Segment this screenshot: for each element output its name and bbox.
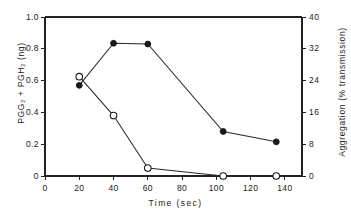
y-axis-right-title: Aggregation (% transmission) [337,4,351,180]
x-tick-label: 140 [269,183,301,193]
x-axis-title: Time (sec) [0,198,351,208]
y-tick-label-left: 0.6 [7,75,39,85]
data-point-open-circle [273,173,280,180]
y-tick-label-right: 40 [309,12,333,22]
series-line-0 [79,43,276,142]
y-tick-label-right: 24 [309,75,333,85]
x-tick-label: 80 [166,183,198,193]
x-tick-label: 20 [63,183,95,193]
y-tick-label-right: 16 [309,107,333,117]
data-point-open-circle [145,165,152,172]
y-tick-label-left: 0 [7,171,39,181]
y-tick-label-right: 0 [309,171,333,181]
series-line-1 [79,77,276,176]
y-tick-label-left: 1.0 [7,12,39,22]
data-point-filled-circle [76,82,82,88]
data-point-open-circle [220,173,227,180]
y-tick-label-left: 0.8 [7,43,39,53]
data-point-filled-circle [145,41,151,47]
x-tick-label: 120 [235,183,267,193]
y-tick-label-right: 8 [309,139,333,149]
data-point-open-circle [110,112,117,119]
x-tick-label: 100 [200,183,232,193]
data-point-filled-circle [273,139,279,145]
x-tick-label: 0 [29,183,61,193]
x-tick-label: 60 [132,183,164,193]
data-point-filled-circle [220,129,226,135]
data-point-open-circle [76,73,83,80]
x-tick-label: 40 [98,183,130,193]
y-tick-label-left: 0.2 [7,139,39,149]
data-point-filled-circle [111,40,117,46]
series-group [76,40,280,179]
chart-figure: PGG₂ + PGH₂ (ng) Aggregation (% transmis… [0,0,351,216]
y-tick-label-right: 32 [309,43,333,53]
y-tick-label-left: 0.4 [7,107,39,117]
axes-group [41,17,306,180]
